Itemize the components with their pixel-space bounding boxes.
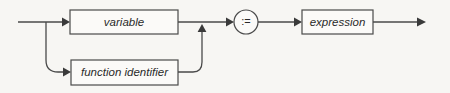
branch-down-connector (46, 22, 63, 72)
node-expression-label: expression (310, 16, 366, 28)
node-function-identifier-label: function identifier (81, 66, 169, 78)
node-assign-operator-label: := (241, 15, 250, 27)
lower-branch-arrowhead-icon (63, 68, 71, 77)
expression-arrowhead-icon (294, 18, 302, 27)
node-variable-label: variable (104, 16, 144, 28)
rejoin-arrowhead-icon (198, 24, 207, 32)
assign-arrowhead-icon (226, 18, 234, 27)
exit-arrowhead-icon (417, 18, 426, 27)
syntax-diagram-page: variable function identifier := expressi… (0, 0, 450, 93)
rejoin-connector (178, 32, 202, 72)
entry-arrowhead-icon (62, 18, 70, 27)
railroad-diagram: variable function identifier := expressi… (0, 0, 450, 93)
